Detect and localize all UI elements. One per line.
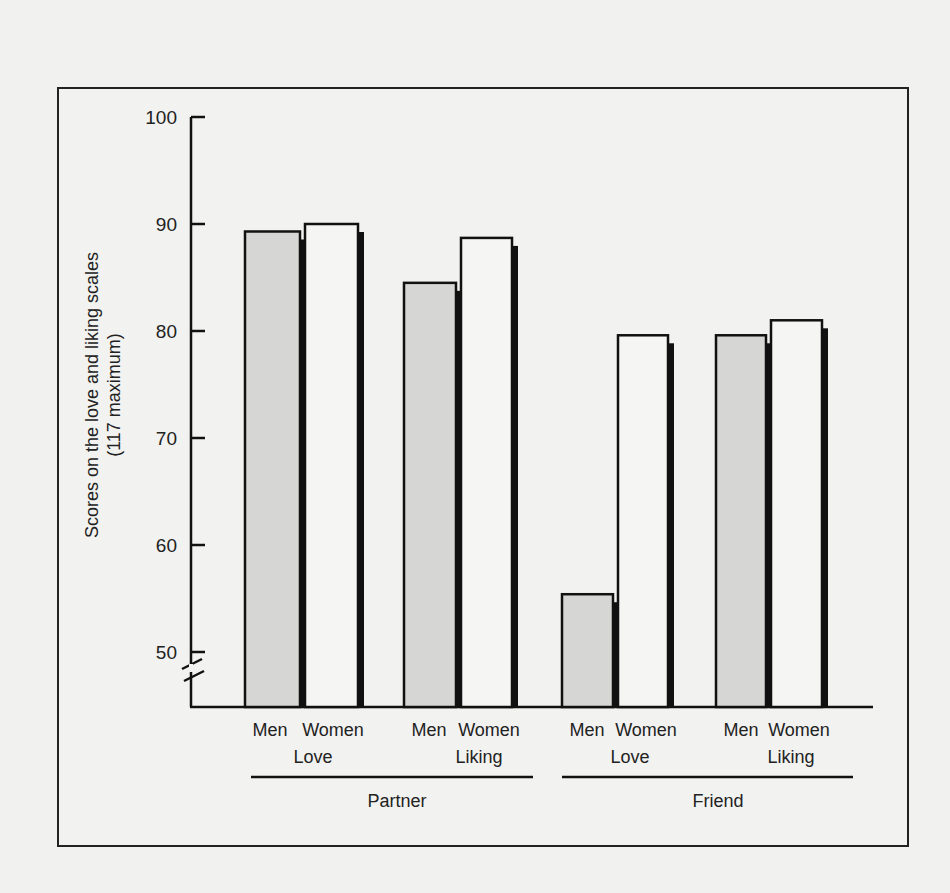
x-sublabel-liking: Liking	[455, 747, 502, 767]
y-tick-label: 80	[156, 321, 177, 342]
x-label-men: Men	[723, 720, 758, 740]
x-label-women: Women	[302, 720, 364, 740]
x-sublabel-liking: Liking	[767, 747, 814, 767]
group-label-friend: Friend	[692, 791, 743, 811]
x-label-women: Women	[615, 720, 677, 740]
bar-friend-love-men	[562, 594, 613, 707]
x-sublabel-love: Love	[293, 747, 332, 767]
x-sublabel-love: Love	[610, 747, 649, 767]
y-axis-title: Scores on the love and liking scales (11…	[82, 252, 124, 538]
x-labels: MenWomenLoveMenWomenLikingMenWomenLoveMe…	[252, 720, 829, 767]
bar-friend-liking-men	[716, 335, 766, 707]
bar-partner-love-women	[305, 224, 358, 707]
y-tick-label: 70	[156, 428, 177, 449]
bar-partner-liking-women	[461, 238, 512, 707]
group-label-partner: Partner	[367, 791, 426, 811]
y-axis-title-main: Scores on the love and liking scales	[82, 252, 102, 538]
y-tick-label: 100	[145, 107, 177, 128]
x-label-women: Women	[768, 720, 830, 740]
y-ticks: 5060708090100	[145, 107, 205, 663]
bar-friend-liking-women	[771, 320, 822, 707]
x-label-women: Women	[458, 720, 520, 740]
bar-friend-love-women	[618, 335, 668, 707]
axis-break-icon	[182, 659, 204, 681]
x-label-men: Men	[252, 720, 287, 740]
x-label-men: Men	[569, 720, 604, 740]
y-axis-title-sub: (117 maximum)	[104, 333, 124, 457]
bar-partner-love-men	[245, 231, 300, 707]
x-label-men: Men	[411, 720, 446, 740]
y-tick-label: 90	[156, 214, 177, 235]
bar-chart: 5060708090100 MenWomenLoveMenWomenLiking…	[0, 0, 950, 893]
bars	[245, 224, 828, 707]
bar-partner-liking-men	[404, 283, 456, 707]
y-tick-label: 50	[156, 642, 177, 663]
y-tick-label: 60	[156, 535, 177, 556]
